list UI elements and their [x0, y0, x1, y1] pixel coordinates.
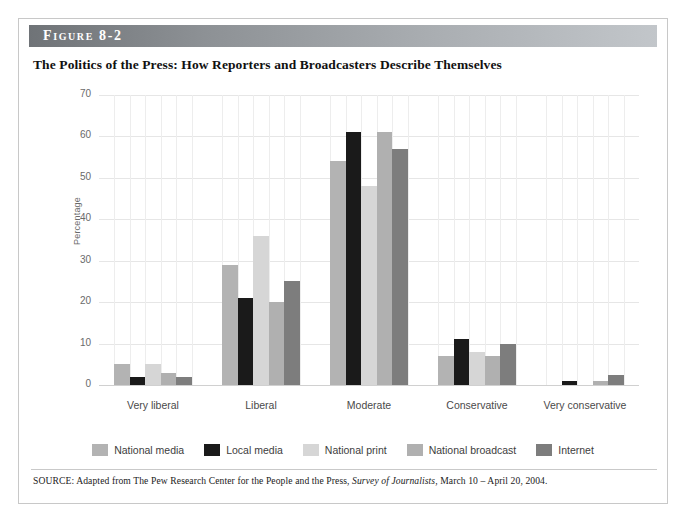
legend-swatch [303, 444, 319, 456]
figure-title: The Politics of the Press: How Reporters… [33, 57, 643, 73]
bar [454, 339, 470, 385]
legend-swatch [204, 444, 220, 456]
legend-swatch [536, 444, 552, 456]
figure-card: Figure 8-2 The Politics of the Press: Ho… [18, 18, 668, 504]
gridline-x [192, 95, 193, 385]
bar [330, 161, 346, 385]
gridline-x [485, 95, 486, 385]
gridline-x [161, 95, 162, 385]
legend-label: National media [114, 444, 184, 456]
bar [114, 364, 130, 385]
x-axis-category-label: Very conservative [531, 399, 639, 411]
y-tick-label: 0 [57, 378, 91, 389]
gridline-x [500, 95, 501, 385]
figure-number-label: Figure 8-2 [43, 28, 123, 44]
bar [562, 381, 578, 385]
gridline-y-70 [99, 95, 639, 96]
bar [238, 298, 254, 385]
bar [130, 377, 146, 385]
legend-label: National print [325, 444, 387, 456]
source-suffix: , March 10 – April 20, 2004. [435, 475, 547, 486]
y-tick-label: 50 [57, 171, 91, 182]
bar [222, 265, 238, 385]
gridline-y-50 [99, 178, 639, 179]
bar [377, 132, 393, 385]
figure-header-bar: Figure 8-2 [29, 25, 657, 47]
gridline-x [408, 95, 409, 385]
source-divider [31, 469, 657, 470]
legend-item[interactable]: Local media [204, 444, 283, 456]
y-tick-label: 70 [57, 88, 91, 99]
source-note: SOURCE: Adapted from The Pew Research Ce… [33, 475, 653, 486]
bar [253, 236, 269, 385]
bar [500, 344, 516, 385]
legend-label: Local media [226, 444, 283, 456]
legend-item[interactable]: Internet [536, 444, 594, 456]
source-prefix: SOURCE: Adapted from The Pew Research Ce… [33, 475, 352, 486]
gridline-x [438, 95, 439, 385]
bar [284, 281, 300, 385]
bar [485, 356, 501, 385]
y-tick-label: 40 [57, 212, 91, 223]
legend-swatch [407, 444, 423, 456]
gridline-x [546, 95, 547, 385]
bar [346, 132, 362, 385]
y-tick-label: 60 [57, 129, 91, 140]
bar [608, 375, 624, 385]
chart-legend: National mediaLocal mediaNational printN… [33, 439, 653, 461]
bar [469, 352, 485, 385]
x-axis-category-label: Liberal [207, 399, 315, 411]
bar [392, 149, 408, 385]
y-tick-label: 10 [57, 337, 91, 348]
gridline-y-0 [99, 385, 639, 386]
gridline-x [145, 95, 146, 385]
gridline-x [176, 95, 177, 385]
x-axis-category-label: Very liberal [99, 399, 207, 411]
y-tick-label: 30 [57, 254, 91, 265]
bar [593, 381, 609, 385]
x-axis-category-label: Moderate [315, 399, 423, 411]
plot-area [99, 95, 639, 385]
bar [145, 364, 161, 385]
gridline-x [300, 95, 301, 385]
bar [269, 302, 285, 385]
x-axis-category-label: Conservative [423, 399, 531, 411]
gridline-y-60 [99, 136, 639, 137]
gridline-x [516, 95, 517, 385]
gridline-x [593, 95, 594, 385]
gridline-x [577, 95, 578, 385]
legend-item[interactable]: National broadcast [407, 444, 517, 456]
legend-label: National broadcast [429, 444, 517, 456]
gridline-x [624, 95, 625, 385]
y-tick-label: 20 [57, 295, 91, 306]
gridline-x [608, 95, 609, 385]
bar [438, 356, 454, 385]
chart-plot-wrapper: Percentage 010203040506070 Very liberalL… [33, 81, 653, 431]
source-publication: Survey of Journalists [352, 475, 435, 486]
gridline-x [562, 95, 563, 385]
bar [176, 377, 192, 385]
bar [361, 186, 377, 385]
gridline-x [130, 95, 131, 385]
legend-label: Internet [558, 444, 594, 456]
bar [161, 373, 177, 385]
legend-swatch [92, 444, 108, 456]
gridline-x [114, 95, 115, 385]
gridline-x [469, 95, 470, 385]
legend-item[interactable]: National media [92, 444, 184, 456]
legend-item[interactable]: National print [303, 444, 387, 456]
